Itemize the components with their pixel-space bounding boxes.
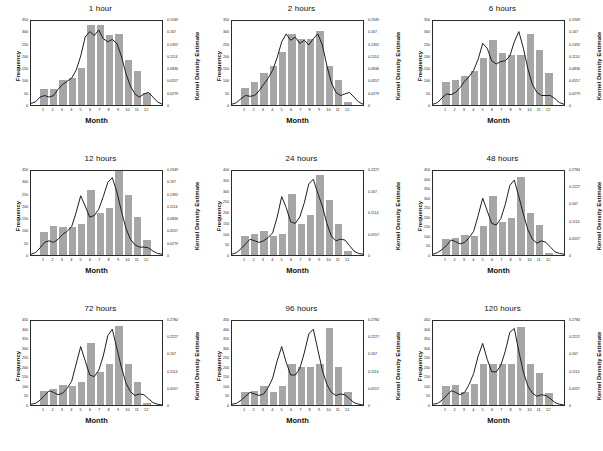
y-tick-right: 0.0279 (368, 92, 379, 96)
chart-panel-9: 120 hours05010015020025030035040045000.0… (402, 300, 603, 450)
y-tick-left: 0 (26, 404, 28, 408)
y-axis-label-right: Kernel Density Estimate (194, 171, 200, 261)
x-tick: 12 (345, 108, 349, 112)
y-tick-left: 150 (424, 225, 430, 229)
y-tick-left: 100 (22, 385, 28, 389)
y-tick-left: 50 (426, 394, 430, 398)
x-tick: 4 (70, 258, 72, 262)
y-tick-left: 300 (223, 30, 229, 34)
x-tick: 2 (51, 258, 53, 262)
y-tick-right: 0.0557 (368, 233, 379, 237)
x-axis-label: Month (30, 266, 163, 275)
y-tick-right: 0.1949 (167, 18, 178, 22)
kde-curve (433, 321, 564, 405)
x-axis-label: Month (231, 266, 364, 275)
y-tick-left: 0 (26, 104, 28, 108)
y-tick-left: 150 (22, 217, 28, 221)
y-tick-left: 350 (223, 179, 229, 183)
y-tick-right: 0.0557 (167, 229, 178, 233)
y-tick-left: 450 (22, 318, 28, 322)
x-tick: 9 (117, 258, 119, 262)
y-tick-left: 250 (223, 43, 229, 47)
y-tick-left: 100 (424, 235, 430, 239)
y-tick-right: 0.1114 (167, 370, 177, 374)
y-tick-right: 0.1114 (569, 220, 579, 224)
x-tick: 9 (519, 108, 521, 112)
y-tick-left: 0 (26, 254, 28, 258)
x-tick: 9 (318, 258, 320, 262)
kde-curve (31, 321, 162, 405)
x-tick: 6 (290, 108, 292, 112)
y-tick-left: 450 (424, 318, 430, 322)
y-axis-label-left: Frequency (417, 26, 423, 106)
x-tick: 10 (527, 408, 531, 412)
y-axis-right: 00.02790.05570.08360.11140.13920.1670.19… (366, 20, 392, 106)
x-tick: 5 (80, 408, 82, 412)
x-tick: 7 (299, 108, 301, 112)
panel-title: 1 hour (0, 4, 201, 13)
panel-title: 12 hours (0, 154, 201, 163)
x-tick: 8 (108, 408, 110, 412)
y-tick-left: 250 (22, 43, 28, 47)
y-tick-left: 100 (22, 79, 28, 83)
x-tick: 1 (444, 408, 446, 412)
y-tick-right: 0 (368, 104, 370, 108)
kde-curve (31, 21, 162, 105)
y-tick-right: 0.2784 (368, 318, 379, 322)
chart-panel-6: 48 hours05010015020025030035040045000.05… (402, 150, 603, 300)
y-tick-right: 0 (569, 104, 571, 108)
x-tick: 12 (144, 408, 148, 412)
y-tick-right: 0.2227 (167, 335, 178, 339)
y-tick-left: 200 (223, 55, 229, 59)
x-tick: 10 (326, 408, 330, 412)
y-tick-right: 0.0557 (167, 79, 178, 83)
x-tick: 10 (326, 258, 330, 262)
x-tick: 9 (117, 408, 119, 412)
y-tick-left: 50 (225, 394, 229, 398)
x-tick: 1 (444, 258, 446, 262)
panel-title: 120 hours (402, 304, 603, 313)
x-tick: 10 (125, 108, 129, 112)
y-tick-left: 150 (223, 222, 229, 226)
y-tick-right: 0 (167, 104, 169, 108)
x-tick: 12 (345, 258, 349, 262)
x-tick: 8 (309, 108, 311, 112)
x-tick: 7 (500, 258, 502, 262)
y-tick-right: 0.2227 (368, 335, 379, 339)
x-tick: 9 (519, 258, 521, 262)
x-tick: 1 (42, 108, 44, 112)
y-tick-right: 0 (569, 254, 571, 258)
plot-area (231, 320, 364, 406)
panel-title: 72 hours (0, 304, 201, 313)
x-tick: 2 (51, 408, 53, 412)
y-tick-left: 100 (223, 385, 229, 389)
x-tick: 1 (243, 108, 245, 112)
y-tick-left: 0 (428, 404, 430, 408)
x-axis-label: Month (432, 266, 565, 275)
kde-curve (31, 171, 162, 255)
y-tick-left: 250 (424, 43, 430, 47)
y-axis-label-right: Kernel Density Estimate (194, 21, 200, 111)
panel-title: 48 hours (402, 154, 603, 163)
x-tick: 7 (98, 258, 100, 262)
y-tick-left: 300 (424, 30, 430, 34)
x-tick: 4 (472, 258, 474, 262)
kde-curve (433, 21, 564, 105)
kde-curve (232, 171, 363, 255)
x-tick: 6 (491, 408, 493, 412)
chart-panel-3: 6 hours05010015020025030035000.02790.055… (402, 0, 603, 150)
y-tick-left: 350 (223, 337, 229, 341)
y-tick-left: 50 (225, 243, 229, 247)
y-tick-left: 350 (22, 337, 28, 341)
y-tick-left: 400 (424, 328, 430, 332)
x-axis-label: Month (231, 416, 364, 425)
y-tick-right: 0.0279 (569, 92, 580, 96)
y-tick-left: 150 (424, 375, 430, 379)
y-tick-right: 0.1392 (569, 43, 580, 47)
y-axis-label-left: Frequency (417, 176, 423, 256)
y-tick-right: 0.2784 (569, 318, 580, 322)
x-tick: 6 (290, 258, 292, 262)
x-tick: 11 (537, 258, 541, 262)
x-tick: 3 (61, 408, 63, 412)
y-tick-right: 0.167 (569, 30, 578, 34)
